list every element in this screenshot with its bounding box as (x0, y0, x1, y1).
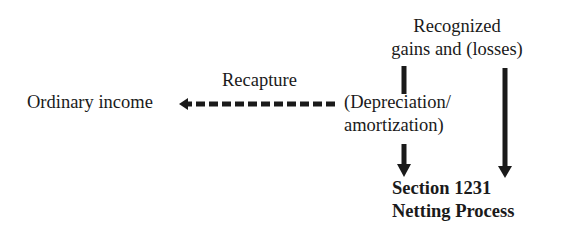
arrowhead-down-icon (397, 164, 411, 177)
diagram-connectors (0, 0, 565, 235)
connector-recognized-to-depreciation (402, 66, 407, 94)
arrow-depreciation-to-section1231 (397, 144, 411, 177)
arrowhead-down-icon (498, 166, 512, 178)
arrow-recognized-to-section1231 (498, 68, 512, 178)
dashed-arrow-recapture-to-ordinary-income (179, 98, 335, 110)
section-1231-flow-diagram: Recognized gains and (losses) Recapture … (0, 0, 565, 235)
